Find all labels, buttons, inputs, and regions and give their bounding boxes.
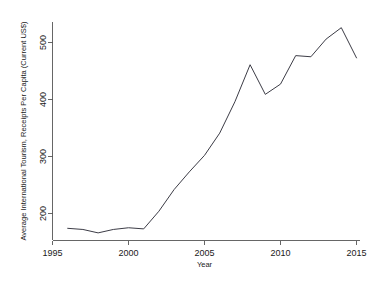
x-tick-marks [53,241,357,246]
data-series-line [68,28,357,233]
y-tick-label-400: 400 [38,92,48,107]
x-tick-labels: 1995 2000 2005 2010 2015 [42,248,366,258]
x-tick-label-1995: 1995 [42,248,62,258]
y-tick-labels: 500 400 300 200 [38,35,48,221]
y-tick-label-500: 500 [38,35,48,50]
y-tick-label-300: 300 [38,149,48,164]
y-tick-marks [48,43,53,214]
x-tick-label-2000: 2000 [118,248,138,258]
line-chart-plot: 500 400 300 200 1995 2000 2005 2010 2015… [0,0,386,281]
y-axis-title: Average International Tourism, Receipts … [19,21,28,240]
x-tick-label-2010: 2010 [270,248,290,258]
x-tick-label-2005: 2005 [194,248,214,258]
chart-figure: 500 400 300 200 1995 2000 2005 2010 2015… [0,0,386,281]
y-tick-label-200: 200 [38,206,48,221]
x-axis-title: Year [197,260,213,269]
x-tick-label-2015: 2015 [346,248,366,258]
